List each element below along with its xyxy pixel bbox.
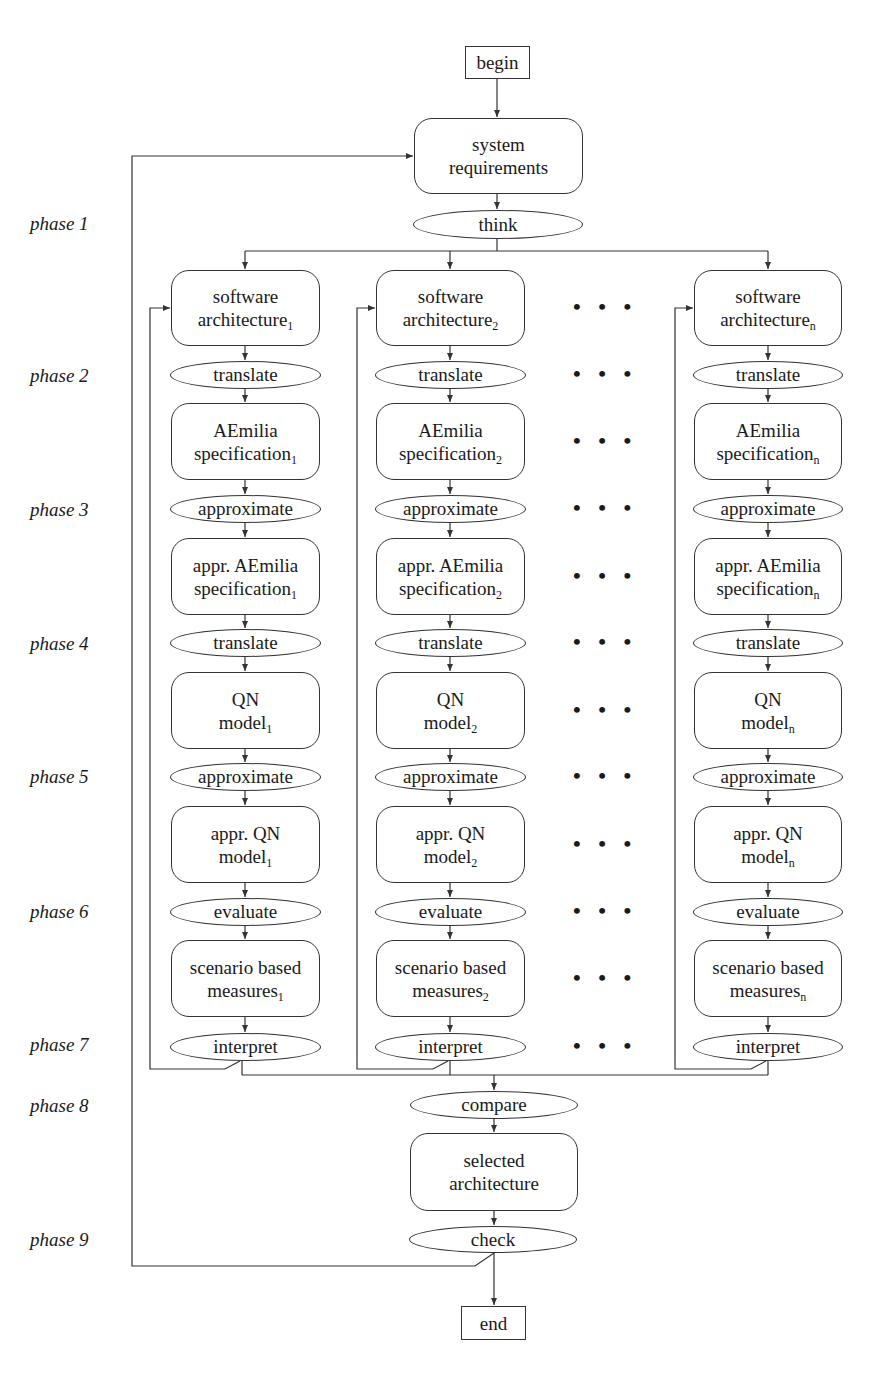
col-2-evaluate-node: evaluate — [375, 898, 526, 926]
col-n-translate-1-label: translate — [736, 365, 800, 385]
col-1-approximate-1-label: approximate — [198, 499, 293, 519]
col-1-scenario-measures-node: scenario basedmeasures1 — [171, 940, 320, 1017]
col-2-appr-aemilia-spec-node: appr. AEmiliaspecification2 — [376, 538, 525, 615]
ellipsis-dots: • • • — [573, 1033, 637, 1059]
phase-label-2: phase 2 — [30, 365, 89, 387]
col-n-evaluate-node: evaluate — [693, 898, 843, 926]
col-2-approximate-2-label: approximate — [403, 767, 498, 787]
col-1-scenario-measures-line1: scenario based — [190, 956, 301, 979]
col-1-aemilia-spec-node: AEmiliaspecification1 — [171, 403, 320, 480]
selected-architecture-line1: selected — [449, 1149, 539, 1172]
col-n-appr-aemilia-spec-node: appr. AEmiliaspecificationn — [694, 538, 842, 615]
column-index-subscript: n — [789, 722, 795, 736]
col-2-appr-aemilia-spec-line2: specification2 — [398, 577, 504, 600]
column-index-subscript: 1 — [291, 588, 297, 602]
phase-label-8: phase 8 — [30, 1095, 89, 1117]
column-index-subscript: 2 — [483, 990, 489, 1004]
phase-label-6: phase 6 — [30, 901, 89, 923]
begin-label: begin — [476, 51, 518, 74]
ellipsis-dots: • • • — [573, 697, 637, 723]
column-index-subscript: 1 — [266, 856, 272, 870]
ellipsis-dots: • • • — [573, 361, 637, 387]
ellipsis-dots: • • • — [573, 831, 637, 857]
col-2-appr-aemilia-spec-line1: appr. AEmilia — [398, 554, 504, 577]
column-index-subscript: 2 — [492, 319, 498, 333]
col-n-software-architecture-line1: software — [720, 285, 816, 308]
end-node: end — [461, 1306, 526, 1340]
col-n-scenario-measures-line2: measuresn — [712, 979, 823, 1002]
col-1-aemilia-spec-line1: AEmilia — [194, 419, 297, 442]
phase-label-4: phase 4 — [30, 633, 89, 655]
ellipsis-dots: • • • — [573, 898, 637, 924]
col-1-appr-qn-model-node: appr. QNmodel1 — [171, 806, 320, 883]
col-1-qn-model-line1: QN — [219, 688, 273, 711]
column-index-subscript: n — [814, 453, 820, 467]
column-index-subscript: 2 — [496, 453, 502, 467]
col-2-translate-1-label: translate — [418, 365, 482, 385]
column-index-subscript: n — [789, 856, 795, 870]
col-n-translate-2-label: translate — [736, 633, 800, 653]
col-n-qn-model-node: QNmodeln — [694, 672, 842, 749]
col-1-interpret-node: interpret — [170, 1033, 321, 1061]
column-index-subscript: 1 — [278, 990, 284, 1004]
ellipsis-dots: • • • — [573, 763, 637, 789]
col-n-approximate-2-label: approximate — [721, 767, 816, 787]
col-1-appr-aemilia-spec-line1: appr. AEmilia — [193, 554, 299, 577]
selected-architecture-line2: architecture — [449, 1172, 539, 1195]
col-2-qn-model-node: QNmodel2 — [376, 672, 525, 749]
ellipsis-dots: • • • — [573, 629, 637, 655]
col-1-appr-qn-model-line2: model1 — [211, 845, 281, 868]
system-requirements-line2: requirements — [449, 156, 548, 179]
col-2-translate-1-node: translate — [375, 361, 526, 389]
col-n-aemilia-spec-node: AEmiliaspecificationn — [694, 403, 842, 480]
ellipsis-dots: • • • — [573, 495, 637, 521]
col-1-evaluate-label: evaluate — [214, 902, 277, 922]
compare-label: compare — [461, 1095, 526, 1115]
col-2-approximate-1-label: approximate — [403, 499, 498, 519]
col-1-approximate-2-label: approximate — [198, 767, 293, 787]
column-index-subscript: 2 — [471, 722, 477, 736]
phase-label-7: phase 7 — [30, 1034, 89, 1056]
col-2-translate-2-node: translate — [375, 629, 526, 657]
col-2-qn-model-line2: model2 — [424, 711, 478, 734]
col-1-software-architecture-node: softwarearchitecture1 — [171, 270, 320, 346]
begin-node: begin — [465, 46, 530, 79]
col-2-software-architecture-line1: software — [403, 285, 499, 308]
col-n-scenario-measures-node: scenario basedmeasuresn — [694, 940, 842, 1017]
col-1-translate-2-node: translate — [170, 629, 321, 657]
phase-label-1: phase 1 — [30, 213, 89, 235]
col-n-qn-model-line2: modeln — [741, 711, 795, 734]
ellipsis-dots: • • • — [573, 965, 637, 991]
column-index-subscript: 1 — [266, 722, 272, 736]
col-2-aemilia-spec-line2: specification2 — [399, 442, 502, 465]
col-n-approximate-2-node: approximate — [693, 763, 843, 791]
col-n-qn-model-line1: QN — [741, 688, 795, 711]
col-1-software-architecture-line2: architecture1 — [198, 308, 294, 331]
check-node: check — [409, 1226, 577, 1253]
col-2-aemilia-spec-line1: AEmilia — [399, 419, 502, 442]
ellipsis-dots: • • • — [573, 563, 637, 589]
col-n-software-architecture-line2: architecturen — [720, 308, 816, 331]
col-1-translate-2-label: translate — [213, 633, 277, 653]
col-1-appr-aemilia-spec-node: appr. AEmiliaspecification1 — [171, 538, 320, 615]
system-requirements-line1: system — [449, 133, 548, 156]
col-2-appr-qn-model-line1: appr. QN — [416, 822, 486, 845]
col-1-evaluate-node: evaluate — [170, 898, 321, 926]
compare-node: compare — [410, 1091, 578, 1119]
col-n-translate-1-node: translate — [693, 361, 843, 389]
phase-label-5: phase 5 — [30, 766, 89, 788]
col-2-aemilia-spec-node: AEmiliaspecification2 — [376, 403, 525, 480]
col-n-aemilia-spec-line2: specificationn — [716, 442, 819, 465]
think-label: think — [478, 215, 517, 235]
check-label: check — [471, 1230, 515, 1250]
col-n-translate-2-node: translate — [693, 629, 843, 657]
col-n-aemilia-spec-line1: AEmilia — [716, 419, 819, 442]
column-index-subscript: 1 — [287, 319, 293, 333]
col-1-translate-1-label: translate — [213, 365, 277, 385]
col-2-approximate-1-node: approximate — [375, 495, 526, 523]
col-2-qn-model-line1: QN — [424, 688, 478, 711]
col-2-translate-2-label: translate — [418, 633, 482, 653]
think-node: think — [413, 210, 583, 239]
col-2-interpret-node: interpret — [375, 1033, 526, 1061]
col-n-scenario-measures-line1: scenario based — [712, 956, 823, 979]
